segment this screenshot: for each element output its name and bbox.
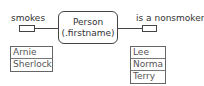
nonsmoker-label: is a nonsmoker bbox=[136, 13, 204, 23]
person-entity: Person (.firstname) bbox=[58, 11, 118, 44]
smokes-members-table: Arnie Sherlock bbox=[10, 46, 53, 72]
entity-attribute: (.firstname) bbox=[62, 28, 115, 39]
smokes-connector-line bbox=[35, 28, 58, 29]
table-row: Lee bbox=[131, 47, 165, 59]
table-row: Arnie bbox=[11, 47, 52, 59]
nonsmoker-members-table: Lee Norma Terry bbox=[130, 46, 166, 84]
table-row: Sherlock bbox=[11, 59, 52, 71]
table-row: Terry bbox=[131, 71, 165, 83]
table-row: Norma bbox=[131, 59, 165, 71]
smokes-role-box bbox=[19, 25, 35, 32]
smokes-label: smokes bbox=[11, 13, 45, 23]
entity-name: Person bbox=[73, 17, 103, 28]
nonsmoker-role-box bbox=[142, 25, 157, 32]
nonsmoker-connector-line bbox=[118, 28, 142, 29]
